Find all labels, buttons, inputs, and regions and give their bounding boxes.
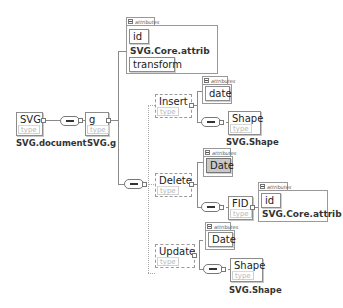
element-shape[interactable]: Shape type: [230, 258, 263, 282]
type-label: SVG.document: [16, 138, 87, 148]
expand-connector[interactable]: [219, 205, 224, 210]
sequence-compositor[interactable]: [203, 264, 223, 274]
connector-line: [118, 51, 119, 185]
attribute-date[interactable]: Date: [206, 158, 231, 173]
type-hint: type: [157, 257, 179, 266]
element-shape[interactable]: Shape type: [228, 111, 261, 135]
element-g[interactable]: g type: [85, 112, 109, 136]
sequence-compositor[interactable]: [201, 202, 221, 212]
attribute-date[interactable]: date: [205, 86, 230, 101]
type-hint: type: [87, 125, 109, 134]
sequence-compositor[interactable]: [201, 117, 221, 127]
attribute-transform[interactable]: transform: [129, 57, 175, 72]
collapse-icon[interactable]: [260, 184, 265, 189]
element-insert[interactable]: Insert type: [155, 94, 192, 118]
expand-connector[interactable]: [78, 118, 83, 123]
collapse-icon[interactable]: [128, 19, 133, 24]
type-hint: type: [230, 124, 252, 133]
attribute-id[interactable]: id: [261, 193, 281, 208]
type-hint: type: [157, 186, 179, 195]
attribute-date[interactable]: Date: [208, 232, 233, 247]
choice-compositor[interactable]: [124, 179, 144, 189]
expand-connector[interactable]: [106, 118, 111, 123]
type-label: SVG.Shape: [226, 137, 279, 147]
sequence-compositor[interactable]: [60, 116, 80, 126]
type-hint: type: [232, 271, 254, 280]
connector-line: [199, 240, 203, 241]
element-update[interactable]: Update type: [155, 244, 195, 268]
connector-line: [148, 105, 155, 106]
connector-line: [199, 240, 200, 270]
collapse-icon[interactable]: [205, 150, 210, 155]
element-delete[interactable]: Delete type: [155, 173, 192, 197]
connector-line: [46, 120, 60, 121]
connector-line: [197, 91, 198, 122]
expand-connector[interactable]: [192, 253, 197, 258]
attribute-id[interactable]: id: [129, 29, 149, 44]
expand-connector[interactable]: [189, 182, 194, 187]
type-hint: type: [157, 107, 179, 116]
connector-line: [118, 51, 126, 52]
type-label: SVG.Shape: [229, 285, 282, 295]
expand-connector[interactable]: [142, 182, 147, 187]
expand-connector[interactable]: [219, 120, 224, 125]
attribute-group-ref: SVG.Core.attrib: [130, 46, 210, 56]
type-label: SVG.g: [87, 138, 116, 148]
connector-line: [148, 273, 155, 274]
collapse-icon[interactable]: [207, 224, 212, 229]
expand-connector[interactable]: [221, 267, 226, 272]
type-hint: type: [230, 209, 252, 218]
expand-connector[interactable]: [189, 103, 194, 108]
connector-line: [148, 105, 149, 273]
connector-line: [111, 120, 118, 121]
expand-connector[interactable]: [41, 118, 46, 123]
type-hint: type: [18, 125, 40, 134]
connector-line: [197, 162, 198, 207]
attribute-group-ref: SVG.Core.attrib: [262, 209, 342, 219]
element-svg[interactable]: SVG type: [16, 112, 43, 136]
expand-connector[interactable]: [250, 205, 255, 210]
collapse-icon[interactable]: [204, 78, 209, 83]
